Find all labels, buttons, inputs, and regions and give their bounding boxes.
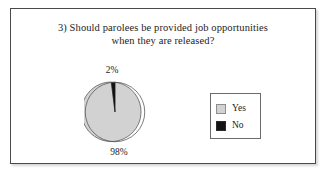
chart-legend: Yes No [210,93,261,139]
chart-title: 3) Should parolees be provided job oppor… [11,22,315,47]
legend-item-no: No [216,117,260,134]
figure-frame: 3) Should parolees be provided job oppor… [10,8,316,164]
slice-label-no: 2% [58,65,166,76]
legend-item-no-label: No [232,120,244,131]
slice-label-yes: 98% [65,147,173,158]
chart-title-line-1: 3) Should parolees be provided job oppor… [11,22,315,35]
square-swatch-icon [216,104,226,114]
figure-page: 3) Should parolees be provided job oppor… [0,0,335,178]
square-swatch-icon [216,121,226,131]
pie-chart-graphic [84,81,146,143]
legend-item-yes-label: Yes [232,103,246,114]
chart-title-line-2: when they are released? [11,35,315,48]
legend-item-yes: Yes [216,100,260,117]
pie-chart-area: 2% 98% [69,61,177,161]
